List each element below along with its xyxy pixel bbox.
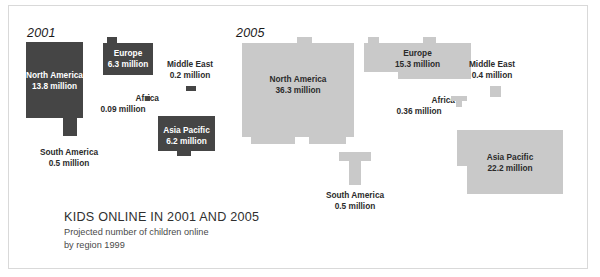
block-2001-asia-pacific-tab: [177, 151, 191, 156]
block-2005-europe-notch: [364, 72, 398, 79]
label-2001-asia-pacific-value: 6.2 million: [158, 136, 215, 147]
label-2005-middle-east-value: 0.4 million: [447, 70, 537, 81]
block-2001-south-america: [63, 118, 77, 136]
block-2005-north-america-notch-mid: [295, 137, 309, 144]
block-2005-south-america: [349, 161, 361, 185]
block-2005-middle-east: [490, 86, 501, 97]
label-2005-south-america: South America 0.5 million: [305, 190, 405, 212]
block-2005-south-america-bar: [339, 152, 371, 161]
label-2005-asia-pacific-name: Asia Pacific: [487, 152, 534, 162]
label-2001-south-america: South America 0.5 million: [19, 147, 119, 169]
caption-block: KIDS ONLINE IN 2001 AND 2005 Projected n…: [64, 210, 259, 251]
label-2005-africa-name: Africa: [393, 95, 455, 106]
caption-subtitle-line1: Projected number of children online: [64, 226, 259, 239]
label-2005-asia-pacific-value: 22.2 million: [457, 163, 563, 174]
block-2005-africa: [456, 101, 462, 107]
label-2005-south-america-value: 0.5 million: [305, 201, 405, 212]
label-2001-north-america-name: North America: [26, 70, 83, 80]
caption-subtitle-line2: by region 1999: [64, 239, 259, 252]
label-2005-north-america-value: 36.3 million: [242, 85, 354, 96]
block-2005-north-america-notch-left: [242, 137, 251, 144]
block-2001-africa: [145, 96, 150, 101]
year-label-2005: 2005: [236, 26, 265, 40]
label-2005-north-america-name: North America: [270, 74, 327, 84]
year-label-2001: 2001: [27, 26, 56, 40]
figure-panel: 2001 North America 13.8 million South Am…: [8, 5, 588, 269]
label-2001-africa-value: 0.09 million: [87, 104, 159, 115]
label-2005-europe-name: Europe: [403, 48, 432, 58]
label-2001-asia-pacific: Asia Pacific 6.2 million: [158, 125, 215, 147]
label-2005-north-america: North America 36.3 million: [242, 74, 354, 96]
label-2005-asia-pacific: Asia Pacific 22.2 million: [457, 152, 563, 174]
label-2001-asia-pacific-name: Asia Pacific: [163, 125, 210, 135]
label-2001-middle-east-value: 0.2 million: [145, 70, 235, 81]
label-2005-africa-value: 0.36 million: [383, 106, 455, 117]
caption-title: KIDS ONLINE IN 2001 AND 2005: [64, 210, 259, 224]
label-2001-middle-east-name: Middle East: [167, 59, 213, 69]
label-2005-south-america-name: South America: [326, 190, 384, 200]
label-2001-south-america-name: South America: [40, 147, 98, 157]
label-2001-middle-east: Middle East 0.2 million: [145, 59, 235, 81]
block-2005-north-america-notch-right: [346, 137, 354, 144]
label-2001-south-america-value: 0.5 million: [19, 158, 119, 169]
label-2001-north-america: North America 13.8 million: [26, 70, 83, 92]
label-2005-middle-east-name: Middle East: [469, 59, 515, 69]
infographic-kids-online: 2001 North America 13.8 million South Am…: [0, 0, 600, 277]
label-2001-europe-name: Europe: [114, 48, 143, 58]
block-2001-middle-east: [186, 86, 196, 91]
label-2001-north-america-value: 13.8 million: [26, 81, 83, 92]
label-2005-middle-east: Middle East 0.4 million: [447, 59, 537, 81]
